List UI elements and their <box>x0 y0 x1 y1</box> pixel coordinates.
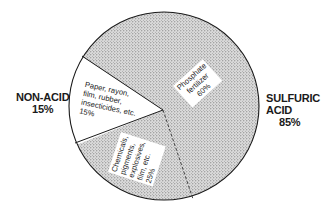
label-non-acid-pct: 15% <box>16 103 69 115</box>
label-non-acid-name: NON-ACID <box>16 91 69 103</box>
label-non-acid: NON-ACID 15% <box>16 91 69 115</box>
label-sulfuric-acid: SULFURIC ACID 85% <box>266 92 320 128</box>
label-sulfuric-pct: 85% <box>266 116 320 128</box>
label-sulfuric-line1: SULFURIC <box>266 92 320 104</box>
label-sulfuric-line2: ACID <box>266 104 320 116</box>
